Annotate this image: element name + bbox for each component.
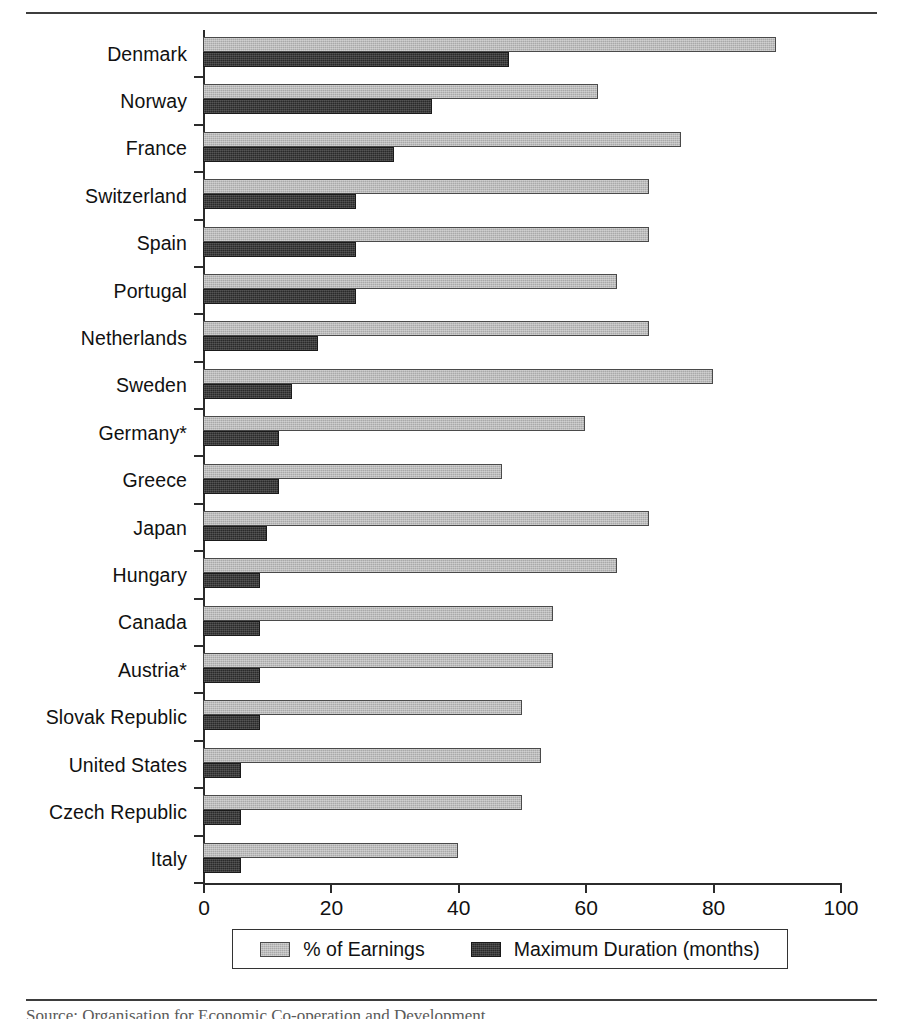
y-tick <box>194 171 203 173</box>
bar-earnings <box>203 511 649 526</box>
chart-legend: % of Earnings Maximum Duration (months) <box>232 929 788 969</box>
bar-earnings <box>203 84 598 99</box>
bar-row: Norway <box>203 77 840 124</box>
bar-row: Japan <box>203 504 840 551</box>
bar-duration <box>203 763 241 778</box>
x-tick <box>585 883 587 893</box>
legend-swatch-duration <box>471 942 501 957</box>
bar-row: Switzerland <box>203 172 840 219</box>
bar-duration <box>203 858 241 873</box>
legend-swatch-earnings <box>260 942 290 957</box>
bar-row: Germany* <box>203 409 840 456</box>
bar-earnings <box>203 227 649 242</box>
y-tick <box>194 598 203 600</box>
bar-duration <box>203 289 356 304</box>
y-tick <box>194 455 203 457</box>
bar-row: Portugal <box>203 267 840 314</box>
y-tick <box>194 219 203 221</box>
y-tick <box>194 76 203 78</box>
category-label: Japan <box>133 516 187 539</box>
bar-row: Spain <box>203 220 840 267</box>
x-tick <box>713 883 715 893</box>
category-label: Hungary <box>113 563 187 586</box>
category-label: France <box>126 137 187 160</box>
category-label: Spain <box>137 232 187 255</box>
category-label: Czech Republic <box>49 800 187 823</box>
bar-earnings <box>203 132 681 147</box>
legend-label-duration: Maximum Duration (months) <box>514 938 760 961</box>
bar-row: Czech Republic <box>203 788 840 835</box>
bar-earnings <box>203 369 713 384</box>
bar-row: Sweden <box>203 362 840 409</box>
category-label: Greece <box>122 469 187 492</box>
category-label: Austria* <box>118 658 187 681</box>
bar-duration <box>203 526 267 541</box>
bar-earnings <box>203 606 553 621</box>
y-tick <box>194 692 203 694</box>
y-tick <box>194 361 203 363</box>
bar-earnings <box>203 321 649 336</box>
bar-row: Slovak Republic <box>203 693 840 740</box>
x-tick-label: 0 <box>198 896 210 920</box>
category-label: United States <box>69 753 187 776</box>
bar-duration <box>203 668 260 683</box>
bar-row: Denmark <box>203 30 840 77</box>
bar-duration <box>203 99 432 114</box>
y-tick <box>194 408 203 410</box>
legend-item-earnings[interactable]: % of Earnings <box>260 938 424 961</box>
x-axis-line <box>203 883 842 885</box>
x-tick-label: 20 <box>320 896 343 920</box>
source-caption: Source: Organisation for Economic Co-ope… <box>26 1006 726 1019</box>
category-label: Slovak Republic <box>46 706 187 729</box>
bar-earnings <box>203 653 553 668</box>
bar-earnings <box>203 843 458 858</box>
bar-row: France <box>203 125 840 172</box>
category-label: Portugal <box>114 279 187 302</box>
category-label: Denmark <box>107 42 187 65</box>
bar-earnings <box>203 700 522 715</box>
category-label: Sweden <box>116 374 187 397</box>
category-label: Italy <box>151 848 187 871</box>
bar-duration <box>203 479 279 494</box>
x-tick <box>330 883 332 893</box>
x-tick-label: 100 <box>823 896 858 920</box>
bar-row: Austria* <box>203 646 840 693</box>
y-tick <box>194 266 203 268</box>
x-tick <box>840 883 842 893</box>
x-tick-label: 60 <box>575 896 598 920</box>
bar-duration <box>203 52 509 67</box>
legend-item-duration[interactable]: Maximum Duration (months) <box>471 938 760 961</box>
category-label: Switzerland <box>85 184 187 207</box>
bar-duration <box>203 621 260 636</box>
legend-label-earnings: % of Earnings <box>303 938 424 961</box>
y-tick <box>194 740 203 742</box>
bar-duration <box>203 715 260 730</box>
bar-row: Netherlands <box>203 314 840 361</box>
bar-earnings <box>203 179 649 194</box>
y-tick <box>194 550 203 552</box>
y-tick <box>194 787 203 789</box>
category-label: Germany* <box>98 421 187 444</box>
y-tick <box>194 645 203 647</box>
bar-row: United States <box>203 741 840 788</box>
bar-row: Italy <box>203 836 840 883</box>
x-tick-label: 40 <box>447 896 470 920</box>
y-tick <box>194 503 203 505</box>
bar-earnings <box>203 416 585 431</box>
bar-duration <box>203 431 279 446</box>
bar-row: Greece <box>203 457 840 504</box>
chart-page: 020406080100 DenmarkNorwayFranceSwitzerl… <box>0 0 899 1019</box>
bar-row: Canada <box>203 599 840 646</box>
y-tick <box>194 882 203 884</box>
y-tick <box>194 124 203 126</box>
bar-earnings <box>203 274 617 289</box>
bottom-rule <box>26 999 877 1001</box>
bar-duration <box>203 810 241 825</box>
bar-earnings <box>203 37 776 52</box>
bar-duration <box>203 194 356 209</box>
category-label: Netherlands <box>81 327 187 350</box>
y-tick <box>194 313 203 315</box>
bar-duration <box>203 384 292 399</box>
bar-earnings <box>203 464 502 479</box>
bar-row: Hungary <box>203 551 840 598</box>
